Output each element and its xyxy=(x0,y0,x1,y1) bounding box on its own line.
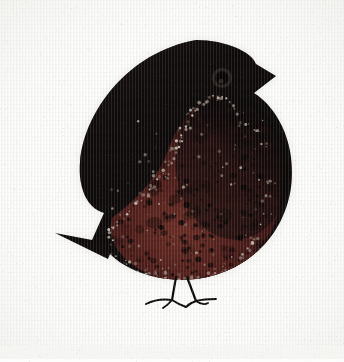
robin-bird-illustration xyxy=(0,0,344,362)
artwork-container: Stylized robin bird illustration printed… xyxy=(0,0,344,362)
